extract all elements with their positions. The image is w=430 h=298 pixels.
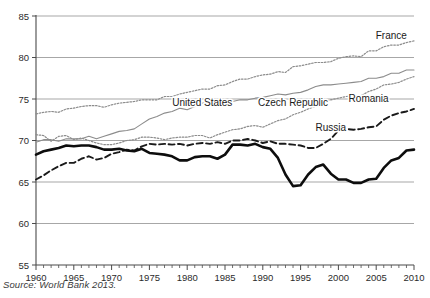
chart-figure: 55606570758085 1960196519701975198019851… bbox=[0, 0, 430, 298]
x-tick-label: 2000 bbox=[328, 272, 349, 283]
series-label: Czech Republic bbox=[258, 97, 328, 108]
y-axis-ticks: 55606570758085 bbox=[18, 11, 36, 271]
data-series-group bbox=[36, 41, 414, 186]
series-label: Romania bbox=[349, 93, 389, 104]
series-label: Russia bbox=[316, 122, 347, 133]
x-tick-label: 2010 bbox=[403, 272, 424, 283]
x-tick-label: 1985 bbox=[214, 272, 235, 283]
series-label: France bbox=[376, 30, 408, 41]
x-tick-label: 1995 bbox=[290, 272, 311, 283]
x-tick-label: 1975 bbox=[139, 272, 160, 283]
plot-border bbox=[36, 15, 414, 265]
x-tick-label: 1990 bbox=[252, 272, 273, 283]
y-tick-label: 70 bbox=[18, 135, 29, 146]
series-line bbox=[36, 144, 414, 186]
series-labels-group: FranceFranceUnited StatesUnited StatesCz… bbox=[172, 30, 407, 133]
series-line bbox=[36, 77, 414, 145]
x-tick-label: 1980 bbox=[177, 272, 198, 283]
source-note: Source: World Bank 2013. bbox=[3, 279, 116, 290]
y-tick-label: 65 bbox=[18, 177, 29, 188]
series-line bbox=[36, 109, 414, 180]
life-expectancy-line-chart: 55606570758085 1960196519701975198019851… bbox=[0, 0, 430, 298]
series-label: United States bbox=[172, 97, 232, 108]
y-tick-label: 75 bbox=[18, 94, 29, 105]
y-tick-label: 80 bbox=[18, 52, 29, 63]
y-tick-label: 55 bbox=[18, 260, 29, 271]
y-tick-label: 85 bbox=[18, 11, 29, 22]
x-tick-label: 2005 bbox=[366, 272, 387, 283]
y-tick-label: 60 bbox=[18, 218, 29, 229]
grid-lines bbox=[36, 16, 414, 224]
